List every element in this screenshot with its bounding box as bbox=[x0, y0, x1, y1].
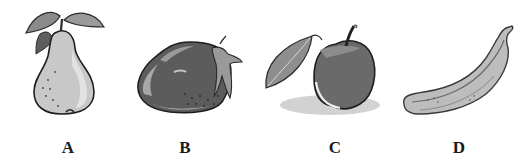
banana-icon bbox=[390, 0, 529, 130]
apple-icon bbox=[250, 0, 390, 130]
option-label-a: A bbox=[53, 138, 83, 158]
option-label-d: D bbox=[444, 138, 474, 158]
option-label-b: B bbox=[170, 138, 200, 158]
strawberry-icon bbox=[130, 0, 250, 130]
option-a: A bbox=[0, 0, 130, 166]
pear-icon bbox=[0, 0, 130, 130]
option-d: D bbox=[390, 0, 529, 166]
option-label-c: C bbox=[320, 138, 350, 158]
option-b: B bbox=[130, 0, 250, 166]
option-c: C bbox=[250, 0, 390, 166]
